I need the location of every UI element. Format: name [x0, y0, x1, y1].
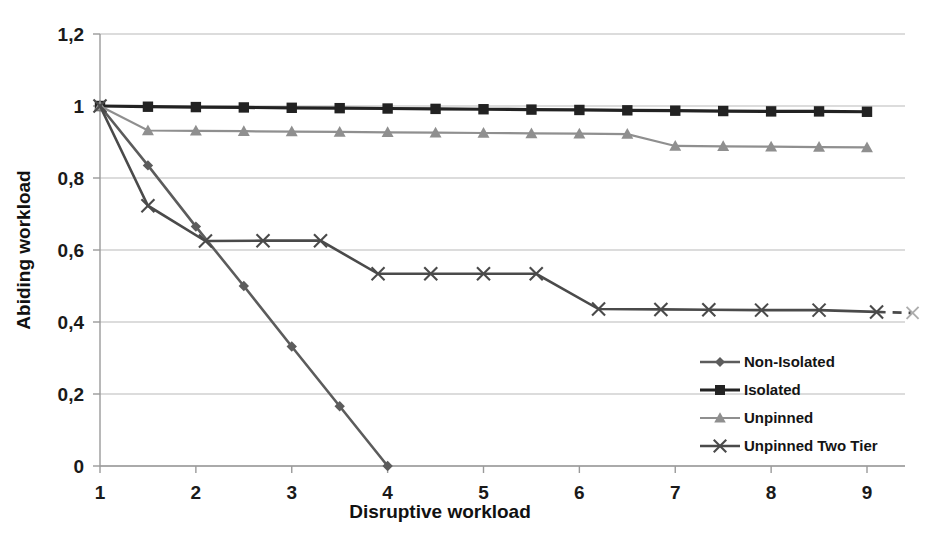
x-tick-label: 8 [766, 482, 777, 503]
x-tick-label: 4 [382, 482, 393, 503]
y-tick-label: 0,4 [58, 312, 85, 333]
y-tick-label: 0,8 [58, 168, 84, 189]
y-tick-label: 1,2 [58, 24, 84, 45]
y-tick-label: 1 [73, 96, 84, 117]
marker-square [382, 103, 392, 113]
marker-square [715, 385, 725, 395]
marker-square [574, 105, 584, 115]
x-tick-label: 9 [862, 482, 873, 503]
marker-square [670, 105, 680, 115]
marker-square [287, 103, 297, 113]
x-tick-label: 7 [670, 482, 681, 503]
y-tick-label: 0,6 [58, 240, 84, 261]
marker-square [718, 106, 728, 116]
line-chart: 00,20,40,60,811,2 123456789 Abiding work… [0, 0, 934, 551]
marker-square [430, 104, 440, 114]
y-tick-label: 0,2 [58, 384, 84, 405]
marker-square [191, 102, 201, 112]
marker-square [526, 104, 536, 114]
y-axis-title: Abiding workload [13, 170, 34, 329]
chart-container: 00,20,40,60,811,2 123456789 Abiding work… [0, 0, 934, 551]
marker-square [814, 106, 824, 116]
marker-square [478, 104, 488, 114]
y-tick-label: 0 [73, 456, 84, 477]
legend-label: Non-Isolated [744, 353, 835, 370]
chart-background [0, 0, 934, 551]
marker-square [334, 103, 344, 113]
x-tick-label: 6 [574, 482, 585, 503]
marker-square [622, 105, 632, 115]
x-tick-label: 2 [191, 482, 202, 503]
x-axis-title: Disruptive workload [349, 501, 531, 522]
x-tick-label: 3 [286, 482, 297, 503]
marker-square [862, 107, 872, 117]
marker-square [766, 106, 776, 116]
marker-square [143, 102, 153, 112]
legend-label: Unpinned [744, 409, 813, 426]
legend-label: Isolated [744, 381, 801, 398]
x-tick-label: 5 [478, 482, 489, 503]
marker-square [239, 102, 249, 112]
x-tick-label: 1 [95, 482, 106, 503]
legend-label: Unpinned Two Tier [744, 437, 878, 454]
